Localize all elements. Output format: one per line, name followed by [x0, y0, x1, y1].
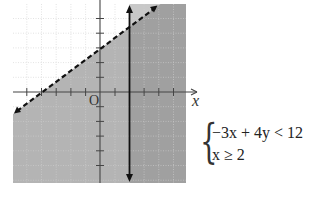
inequality-graph	[0, 0, 200, 199]
inequality-2: x ≥ 2	[212, 146, 245, 164]
inequality-1: −3x + 4y < 12	[212, 124, 303, 142]
x-axis-label: x	[192, 92, 199, 110]
origin-label: O	[89, 93, 99, 109]
